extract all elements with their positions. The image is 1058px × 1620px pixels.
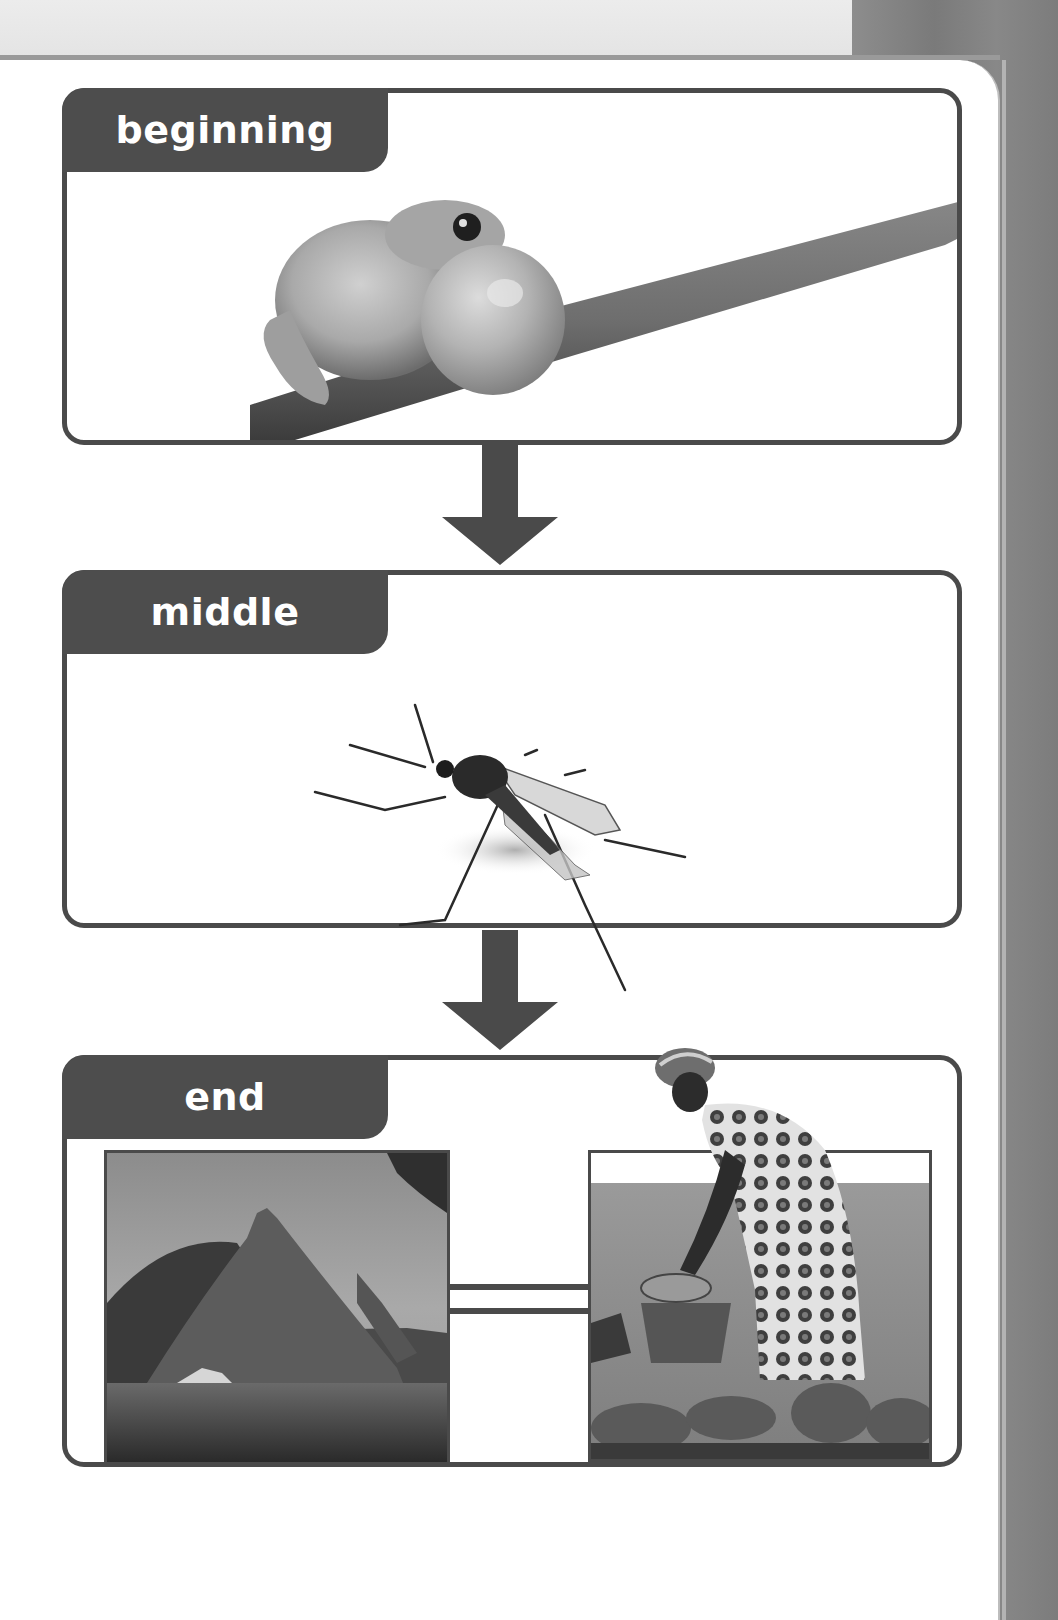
panel-beginning: beginning xyxy=(62,88,962,445)
connector-line xyxy=(448,1284,588,1290)
frog-on-branch-image xyxy=(67,93,957,440)
arrow-down-icon xyxy=(438,445,562,567)
panel-middle: middle xyxy=(62,570,962,928)
woman-figure-image xyxy=(640,1040,870,1380)
arrow-down-icon xyxy=(438,930,562,1052)
panel-label: end xyxy=(184,1075,266,1119)
panel-label-tab: end xyxy=(62,1055,388,1139)
connector-line xyxy=(448,1308,588,1314)
thatched-huts-photo xyxy=(104,1150,450,1465)
